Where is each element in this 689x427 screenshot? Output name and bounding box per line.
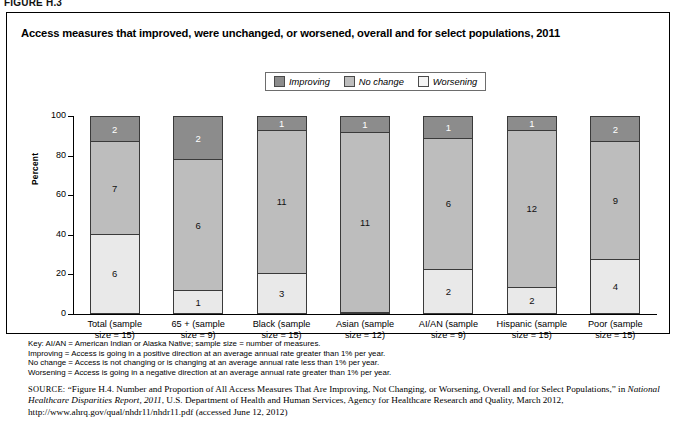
source-prefix: SOURCE: (28, 385, 65, 394)
bar-segment-improving[interactable]: 2 (174, 117, 222, 160)
bar-segment-nochange[interactable]: 6 (424, 139, 472, 270)
y-axis-label: Percent (30, 153, 40, 185)
plot-area: Percent 020406080100 2762611113111162112… (7, 13, 669, 333)
bar-group: 27626111131111621122294 (73, 116, 657, 314)
x-axis-label: AI/AN (samplesize = 9) (407, 319, 490, 340)
stacked-bar[interactable]: 261 (173, 116, 223, 314)
bar-segment-worsening[interactable]: 3 (258, 274, 306, 313)
x-axis-label-line: Total (sample (73, 319, 156, 330)
stacked-bar[interactable]: 1122 (507, 116, 557, 314)
bar-segment-nochange[interactable]: 12 (508, 131, 556, 288)
bar-segment-improving[interactable]: 1 (258, 117, 306, 131)
x-axis-label-line: 65 + (sample (156, 319, 239, 330)
x-axis-label: Black (samplesize = 15) (240, 319, 323, 340)
figure-label: FIGURE H.3 (4, 0, 62, 8)
bar-slot: 111 (340, 116, 390, 314)
x-axis-label: 65 + (samplesize = 9) (156, 319, 239, 340)
stacked-bar[interactable]: 294 (590, 116, 640, 314)
x-axis-label-line: Black (sample (240, 319, 323, 330)
bar-slot: 261 (173, 116, 223, 314)
source-part1: “Figure H.4. Number and Proportion of Al… (65, 384, 627, 394)
bar-segment-improving[interactable]: 1 (508, 117, 556, 131)
x-axis-label-line: AI/AN (sample (407, 319, 490, 330)
bar-segment-worsening[interactable]: 1 (174, 291, 222, 313)
bar-slot: 1122 (507, 116, 557, 314)
bar-segment-nochange[interactable]: 7 (91, 142, 139, 234)
x-axis-line (73, 314, 657, 315)
bar-segment-improving[interactable]: 2 (591, 117, 639, 142)
bar-segment-improving[interactable]: 2 (91, 117, 139, 142)
y-tick-label-20: 20 (40, 268, 66, 278)
bar-segment-improving[interactable]: 1 (341, 117, 389, 133)
note-key: Key: AI/AN = American Indian or Alaska N… (28, 339, 628, 349)
chart-container: Access measures that improved, were unch… (6, 12, 670, 334)
x-axis-label: Asian (samplesize = 12) (323, 319, 406, 340)
stacked-bar[interactable]: 276 (90, 116, 140, 314)
y-tick-label-40: 40 (40, 229, 66, 239)
bar-segment-worsening[interactable]: 2 (508, 288, 556, 313)
x-axis-label: Poor (samplesize = 15) (574, 319, 657, 340)
bar-segment-worsening[interactable]: 6 (91, 235, 139, 313)
source-citation: SOURCE: “Figure H.4. Number and Proporti… (28, 384, 668, 418)
bar-slot: 1113 (257, 116, 307, 314)
y-tick-label-60: 60 (40, 189, 66, 199)
bar-segment-improving[interactable]: 1 (424, 117, 472, 139)
y-tick-label-0: 0 (40, 308, 66, 318)
x-axis-label: Total (samplesize = 15) (73, 319, 156, 340)
bar-segment-nochange[interactable]: 6 (174, 160, 222, 291)
stacked-bar[interactable]: 111 (340, 116, 390, 314)
x-axis-label-line: Asian (sample (323, 319, 406, 330)
y-tick-label-80: 80 (40, 150, 66, 160)
y-tick-label-100: 100 (40, 110, 66, 120)
x-axis-label: Hispanic (samplesize = 15) (490, 319, 573, 340)
note-no-change: No change = Access is not changing or is… (28, 358, 628, 368)
bar-segment-nochange[interactable]: 9 (591, 142, 639, 260)
bar-slot: 162 (423, 116, 473, 314)
x-axis-label-line: Poor (sample (574, 319, 657, 330)
bar-segment-worsening[interactable]: 2 (424, 270, 472, 313)
bar-slot: 276 (90, 116, 140, 314)
stacked-bar[interactable]: 162 (423, 116, 473, 314)
bar-segment-nochange[interactable]: 11 (258, 131, 306, 274)
x-axis-label-line: Hispanic (sample (490, 319, 573, 330)
note-worsening: Worsening = Access is going in a negativ… (28, 368, 628, 378)
stacked-bar[interactable]: 1113 (257, 116, 307, 314)
chart-notes: Key: AI/AN = American Indian or Alaska N… (28, 339, 628, 377)
bar-slot: 294 (590, 116, 640, 314)
bar-segment-nochange[interactable]: 11 (341, 133, 389, 313)
bar-segment-worsening[interactable]: 4 (591, 260, 639, 313)
note-improving: Improving = Access is going in a positiv… (28, 349, 628, 359)
